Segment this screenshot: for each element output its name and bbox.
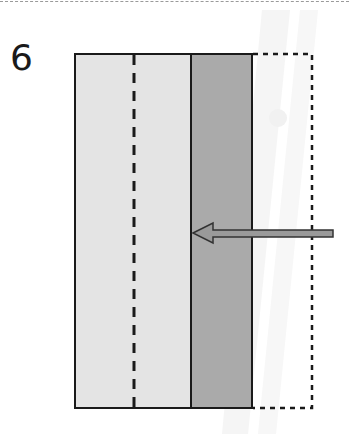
light-panel: [75, 54, 191, 408]
fold-diagram: [0, 0, 349, 434]
